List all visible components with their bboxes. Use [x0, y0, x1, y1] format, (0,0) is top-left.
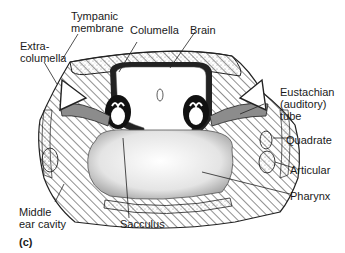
- label-articular: Articular: [290, 164, 330, 176]
- label-eustachian-tube: Eustachian (auditory) tube: [280, 86, 334, 122]
- articular-bone: [259, 151, 275, 173]
- inner-ear-left: [105, 95, 131, 129]
- pharynx-cavity: [88, 130, 233, 199]
- label-middle-ear-cavity: Middle ear cavity: [19, 206, 66, 230]
- quadrate-bone: [260, 131, 272, 149]
- label-pharynx: Pharynx: [290, 190, 330, 202]
- label-brain: Brain: [190, 24, 216, 36]
- label-columella: Columella: [130, 24, 179, 36]
- panel-label: (c): [19, 236, 32, 248]
- label-extracolumella: Extra- columella: [20, 40, 66, 64]
- anatomy-diagram: Tympanic membrane Columella Brain Extra-…: [0, 0, 345, 253]
- label-tympanic-membrane: Tympanic membrane: [71, 10, 124, 34]
- label-quadrate: Quadrate: [286, 134, 332, 146]
- label-sacculus: Sacculus: [120, 218, 165, 230]
- inner-ear-right: [183, 95, 209, 129]
